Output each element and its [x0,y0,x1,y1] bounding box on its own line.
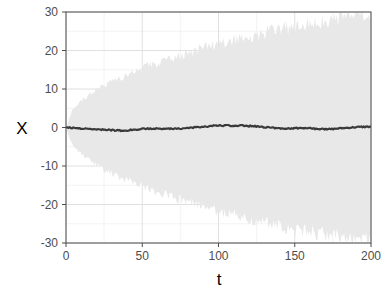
chart-container: 050100150200 -30-20-100102030 t X [0,0,390,295]
y-tick-label: 0 [51,121,58,135]
y-axis-title: X [16,119,27,138]
x-tick-label: 50 [136,249,150,263]
y-tick-label: -10 [41,159,59,173]
x-tick-label: 100 [208,249,228,263]
x-tick-label: 200 [361,249,381,263]
y-tick-label: 20 [45,44,59,58]
x-tick-label: 0 [63,249,70,263]
x-axis-title: t [217,270,222,289]
y-tick-label: -20 [41,198,59,212]
x-tick-label: 150 [285,249,305,263]
y-tick-label: 10 [45,82,59,96]
y-tick-label: 30 [45,5,59,19]
random-walk-ensemble-chart: 050100150200 -30-20-100102030 t X [0,0,390,295]
y-tick-label: -30 [41,236,59,250]
